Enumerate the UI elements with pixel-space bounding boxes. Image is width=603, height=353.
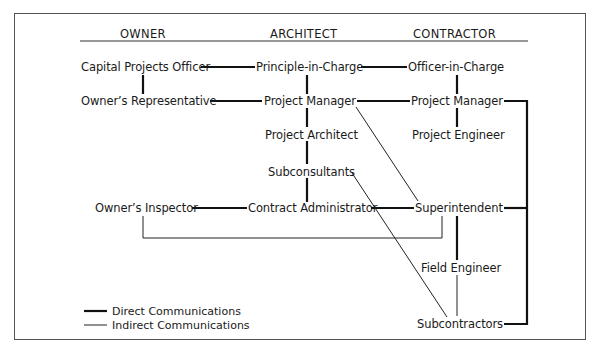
node-subconsultants: Subconsultants xyxy=(268,165,355,179)
node-officer-in-charge: Officer-in-Charge xyxy=(408,60,504,74)
node-field-engineer: Field Engineer xyxy=(421,261,501,275)
node-owners-representative: Owner’s Representative xyxy=(81,94,217,108)
node-contractor-project-manager: Project Manager xyxy=(411,94,503,108)
node-contract-administrator: Contract Administrator xyxy=(248,201,377,215)
node-superintendent: Superintendent xyxy=(415,201,503,215)
line-oi-sup xyxy=(143,216,442,238)
header-contractor: CONTRACTOR xyxy=(413,27,496,41)
node-principle-in-charge: Principle-in-Charge xyxy=(256,60,363,74)
legend-direct-label: Direct Communications xyxy=(112,305,241,318)
line-subcon-subcontr xyxy=(352,173,447,317)
node-project-engineer: Project Engineer xyxy=(412,128,505,142)
header-owner: OWNER xyxy=(120,27,166,41)
node-owners-inspector: Owner’s Inspector xyxy=(95,201,198,215)
node-architect-project-manager: Project Manager xyxy=(264,94,356,108)
node-subcontractors: Subcontractors xyxy=(417,317,503,331)
legend-indirect-label: Indirect Communications xyxy=(112,319,250,332)
node-project-architect: Project Architect xyxy=(265,128,358,142)
node-capital-projects-officer: Capital Projects Officer xyxy=(81,60,210,74)
line-apm-sup xyxy=(356,107,418,201)
line-bracket-right xyxy=(504,101,527,324)
header-architect: ARCHITECT xyxy=(270,27,337,41)
